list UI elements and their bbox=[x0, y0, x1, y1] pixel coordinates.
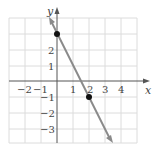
chart: x y −2 −1 1 2 3 4 2 1 −1 −2 −3 bbox=[0, 0, 154, 152]
svg-text:−2: −2 bbox=[17, 84, 32, 95]
x-tick-labels: −2 −1 1 2 3 4 bbox=[17, 84, 124, 95]
svg-text:−2: −2 bbox=[40, 108, 55, 119]
svg-text:2: 2 bbox=[48, 45, 54, 56]
x-axis-arrow-icon bbox=[143, 79, 150, 84]
y-axis-label: y bbox=[46, 5, 54, 18]
svg-text:1: 1 bbox=[70, 84, 76, 95]
svg-text:3: 3 bbox=[102, 84, 108, 95]
line-arrow-bottom-icon bbox=[106, 135, 113, 143]
y-axis-arrow-icon bbox=[55, 7, 60, 14]
svg-text:−3: −3 bbox=[40, 124, 55, 135]
svg-text:1: 1 bbox=[48, 61, 54, 72]
x-axis-label: x bbox=[145, 84, 152, 97]
svg-text:−1: −1 bbox=[40, 92, 55, 103]
svg-text:4: 4 bbox=[118, 84, 124, 95]
point-2-neg1 bbox=[86, 94, 92, 100]
point-0-3 bbox=[54, 31, 60, 37]
